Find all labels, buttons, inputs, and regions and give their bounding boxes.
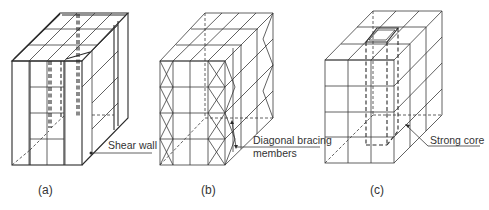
panel-c-core-building: [325, 11, 442, 163]
caption-c: (c): [370, 183, 384, 197]
strong-core-label: Strong core: [430, 134, 484, 146]
caption-b: (b): [201, 183, 216, 197]
diagonal-bracing-label-line1: Diagonal bracing: [253, 134, 332, 146]
strong-core-callout: Strong core: [405, 124, 484, 146]
diagonal-bracing-label-line2: members: [253, 147, 297, 159]
shear-wall-label: Shear wall: [108, 139, 157, 151]
diagonal-bracing-callout: Diagonal bracing members: [230, 120, 332, 159]
structural-systems-figure: Shear wall (a): [0, 0, 489, 210]
caption-a: (a): [38, 183, 53, 197]
